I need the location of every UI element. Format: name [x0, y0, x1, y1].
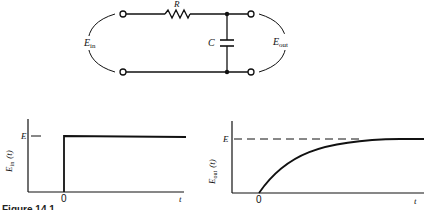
- capacitor-label: C: [208, 37, 215, 48]
- resistor-symbol: [165, 10, 190, 18]
- input-terminal-top: [120, 11, 126, 17]
- input-ytick-e: E: [20, 131, 27, 141]
- rc-circuit-figure: R C Ein Eout E 0 t Ein(t) E 0 t Eout(t): [0, 0, 427, 210]
- output-terminal-bottom: [248, 69, 254, 75]
- input-ylabel: Ein(t): [4, 150, 15, 173]
- input-step-curve: [64, 136, 186, 192]
- rc-circuit: [88, 10, 286, 75]
- output-charging-plot: E 0 t Eout(t): [207, 121, 424, 206]
- output-charging-curve: [259, 139, 424, 193]
- input-xlabel: t: [179, 194, 182, 204]
- output-xlabel: t: [414, 196, 417, 206]
- junction-dot-top: [225, 12, 229, 16]
- figure-caption: Figure 14.1: [2, 204, 55, 210]
- output-ytick-e: E: [222, 134, 229, 144]
- output-ylabel: Eout(t): [207, 159, 218, 185]
- junction-dot-bottom: [225, 70, 229, 74]
- input-terminal-bottom: [120, 69, 126, 75]
- input-xtick-zero: 0: [61, 193, 67, 204]
- output-xtick-zero: 0: [256, 194, 262, 205]
- output-terminal-top: [248, 11, 254, 17]
- resistor-label: R: [173, 0, 180, 9]
- input-step-plot: E 0 t Ein(t): [4, 119, 186, 204]
